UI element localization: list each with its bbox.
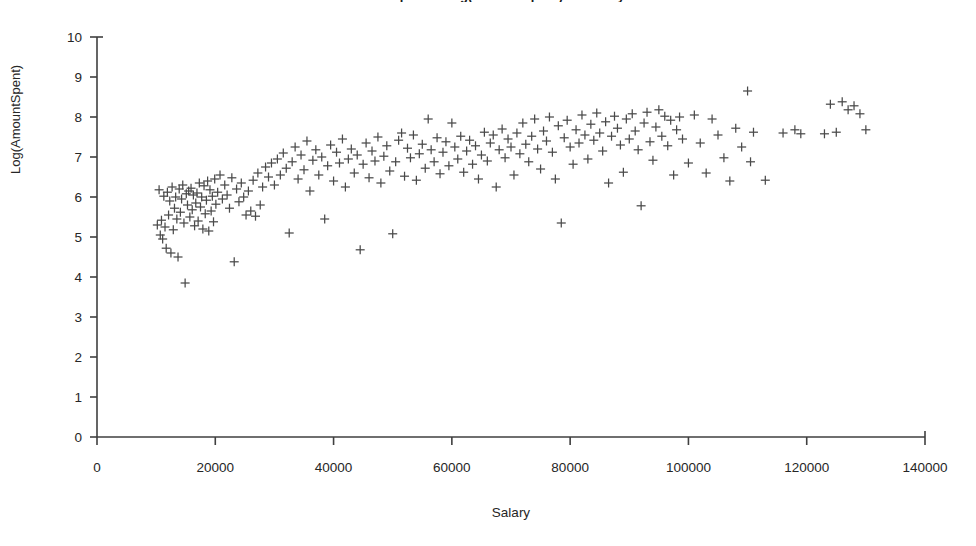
data-point-marker <box>690 111 699 120</box>
data-point-marker <box>421 164 430 173</box>
data-point-marker <box>826 100 835 109</box>
data-point-marker <box>820 129 829 138</box>
data-point-marker <box>575 139 584 148</box>
data-point-marker <box>628 109 637 118</box>
data-point-marker <box>459 168 468 177</box>
data-point-marker <box>297 151 306 160</box>
y-tick-label: 0 <box>74 430 82 445</box>
data-point-marker <box>256 201 265 210</box>
data-point-marker <box>518 119 527 128</box>
data-point-marker <box>234 197 243 206</box>
data-point-marker <box>577 111 586 120</box>
data-point-marker <box>438 148 447 157</box>
data-point-marker <box>702 169 711 178</box>
data-point-marker <box>616 141 625 150</box>
y-tick-label: 8 <box>74 110 82 125</box>
data-point-marker <box>376 179 385 188</box>
data-point-marker <box>213 188 222 197</box>
data-point-marker <box>353 151 362 160</box>
y-tick-label: 2 <box>74 350 82 365</box>
data-point-marker <box>832 128 841 137</box>
data-point-marker <box>607 132 616 141</box>
data-point-marker <box>368 147 377 156</box>
data-point-marker <box>158 235 167 244</box>
data-point-marker <box>264 173 273 182</box>
data-point-marker <box>230 257 239 266</box>
data-point-marker <box>406 153 415 162</box>
data-point-marker <box>651 123 660 132</box>
data-point-marker <box>249 176 258 185</box>
data-point-marker <box>533 145 542 154</box>
data-point-marker <box>731 124 740 133</box>
data-point-marker <box>474 175 483 184</box>
data-point-marker <box>382 141 391 150</box>
data-point-marker <box>400 172 409 181</box>
data-point-marker <box>282 164 291 173</box>
data-point-marker <box>165 197 174 206</box>
y-tick-label: 5 <box>74 230 82 245</box>
data-point-marker <box>447 119 456 128</box>
data-point-marker <box>643 108 652 117</box>
data-point-marker <box>270 181 279 190</box>
x-tick-label: 80000 <box>551 460 589 475</box>
data-point-marker <box>604 179 613 188</box>
data-point-marker <box>174 253 183 262</box>
data-point-marker <box>663 141 672 150</box>
x-tick-label: 120000 <box>784 460 829 475</box>
data-point-marker <box>362 139 371 148</box>
data-point-marker <box>338 135 347 144</box>
data-point-marker <box>539 127 548 136</box>
data-point-marker <box>211 200 220 209</box>
data-point-marker <box>714 131 723 140</box>
data-point-marker <box>162 244 171 253</box>
data-point-marker <box>796 129 805 138</box>
x-tick-label: 20000 <box>197 460 235 475</box>
data-point-marker <box>177 195 186 204</box>
data-point-marker <box>610 112 619 121</box>
data-point-marker <box>601 117 610 126</box>
data-point-marker <box>305 187 314 196</box>
data-point-marker <box>654 105 663 114</box>
data-point-marker <box>737 143 746 152</box>
scatter-chart: Scatter plot of Log(AmountSpent) vs Sala… <box>0 0 976 546</box>
x-tick-label: 100000 <box>666 460 711 475</box>
data-point-marker <box>761 176 770 185</box>
x-tick-label: 0 <box>93 460 101 475</box>
data-point-marker <box>242 211 251 220</box>
data-point-marker <box>232 185 241 194</box>
data-point-marker <box>486 139 495 148</box>
data-point-marker <box>696 139 705 148</box>
data-point-marker <box>156 231 165 240</box>
x-axis-ticks: 020000400006000080000100000120000140000 <box>93 437 947 475</box>
data-point-marker <box>509 171 518 180</box>
data-point-marker <box>589 136 598 145</box>
data-point-marker <box>672 125 681 134</box>
data-point-marker <box>524 157 533 166</box>
data-point-marker <box>480 128 489 137</box>
data-point-marker <box>551 175 560 184</box>
data-point-marker <box>725 177 734 186</box>
data-point-marker <box>164 211 173 220</box>
data-point-marker <box>536 165 545 174</box>
data-point-marker <box>225 204 234 213</box>
data-point-marker <box>619 168 628 177</box>
data-point-marker <box>302 137 311 146</box>
data-point-marker <box>350 169 359 178</box>
data-point-marker <box>483 157 492 166</box>
data-point-marker <box>850 101 859 110</box>
data-point-marker <box>669 171 678 180</box>
data-point-marker <box>548 148 557 157</box>
data-point-marker <box>501 153 510 162</box>
data-point-marker <box>244 187 253 196</box>
data-point-marker <box>684 159 693 168</box>
data-point-marker <box>640 119 649 128</box>
data-point-marker <box>391 157 400 166</box>
data-point-marker <box>179 219 188 228</box>
data-point-marker <box>223 191 232 200</box>
data-point-marker <box>719 153 728 162</box>
data-point-marker <box>450 143 459 152</box>
data-point-marker <box>595 129 604 138</box>
data-point-marker <box>314 171 323 180</box>
data-point-marker <box>326 141 335 150</box>
data-point-marker <box>209 217 218 226</box>
